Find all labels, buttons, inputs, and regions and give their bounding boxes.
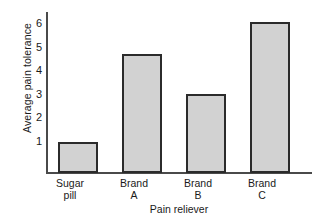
x-tick-label-brand-a: Brand A (98, 177, 170, 201)
x-tick-label-sugar-pill: Sugar pill (34, 177, 106, 201)
bar-brand-b (186, 94, 226, 173)
x-tick-label-brand-b: Brand B (162, 177, 234, 201)
bar-sugar-pill (58, 142, 98, 173)
bar-brand-c (250, 22, 290, 173)
bar-chart: Average pain tolerance 6 5 4 3 2 1 Sugar… (0, 0, 322, 221)
y-tick-label: 4 (26, 65, 42, 76)
y-tick-label: 3 (26, 89, 42, 100)
bar-brand-a (122, 54, 162, 173)
x-axis-title: Pain reliever (46, 203, 312, 215)
x-tick-label-brand-c: Brand C (226, 177, 298, 201)
plot-area (46, 0, 312, 173)
y-tick-label: 2 (26, 112, 42, 123)
y-tick-label: 1 (26, 136, 42, 147)
y-tick-label: 6 (26, 18, 42, 29)
y-tick-label: 5 (26, 42, 42, 53)
